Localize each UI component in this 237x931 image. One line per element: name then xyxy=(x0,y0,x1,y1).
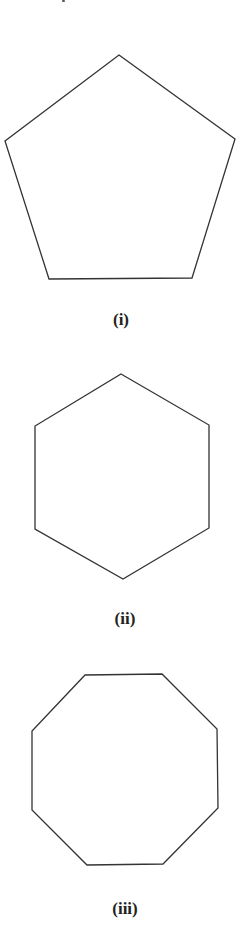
pentagon-label: (i) xyxy=(113,311,129,328)
polygon-figure xyxy=(0,0,237,931)
pentagon-shape xyxy=(5,55,235,279)
hexagon-shape xyxy=(35,374,209,579)
octagon-label: (iii) xyxy=(112,900,138,917)
octagon-shape xyxy=(32,674,218,865)
hexagon-label: (ii) xyxy=(115,610,136,627)
